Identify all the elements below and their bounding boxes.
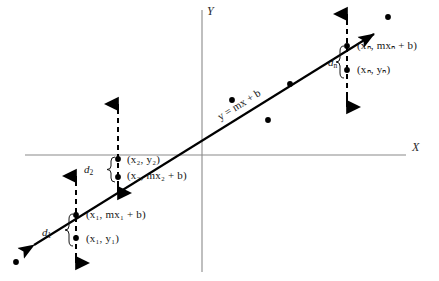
data-point (385, 14, 391, 20)
point-xn-on-line-label: (xₙ, mxₙ + b) (357, 39, 417, 52)
data-point (73, 235, 79, 241)
d2-subscript: 2 (90, 168, 94, 177)
point-x1-data-label: (x₁, y₁) (86, 232, 119, 244)
deviation-d2-brace (107, 157, 115, 182)
deviation-d2-label: d2 (84, 163, 93, 177)
data-point (265, 117, 271, 123)
line-point (115, 174, 121, 180)
data-point (115, 156, 121, 162)
data-point (287, 81, 293, 87)
y-axis-label: Y (207, 4, 214, 19)
deviation-d2-group (107, 104, 118, 193)
x-axis-label: X (412, 140, 419, 155)
point-x2-on-line-label: (x₂, mx₂ + b) (127, 169, 187, 181)
dn-subscript: n (334, 61, 338, 70)
deviation-dn-group (336, 14, 347, 107)
line-point (73, 212, 79, 218)
regression-line (34, 34, 374, 245)
point-x2-data-label: (x₂, y₂) (127, 153, 160, 165)
deviation-d1-label: d1 (42, 226, 51, 240)
point-x1-on-line-label: (x₁, mx₁ + b) (86, 208, 146, 220)
deviation-d1-brace (65, 214, 73, 246)
data-point (13, 259, 19, 265)
data-point (344, 67, 350, 73)
d1-subscript: 1 (48, 231, 52, 240)
deviation-dn-label: dn (328, 56, 337, 70)
line-point (344, 43, 350, 49)
regression-line-group (34, 34, 374, 245)
line-points-group (73, 43, 350, 218)
least-squares-figure: Y X y = mx + b dn (xₙ, mxₙ + b) (xₙ, yₙ)… (0, 0, 439, 281)
point-xn-data-label: (xₙ, yₙ) (357, 63, 390, 76)
